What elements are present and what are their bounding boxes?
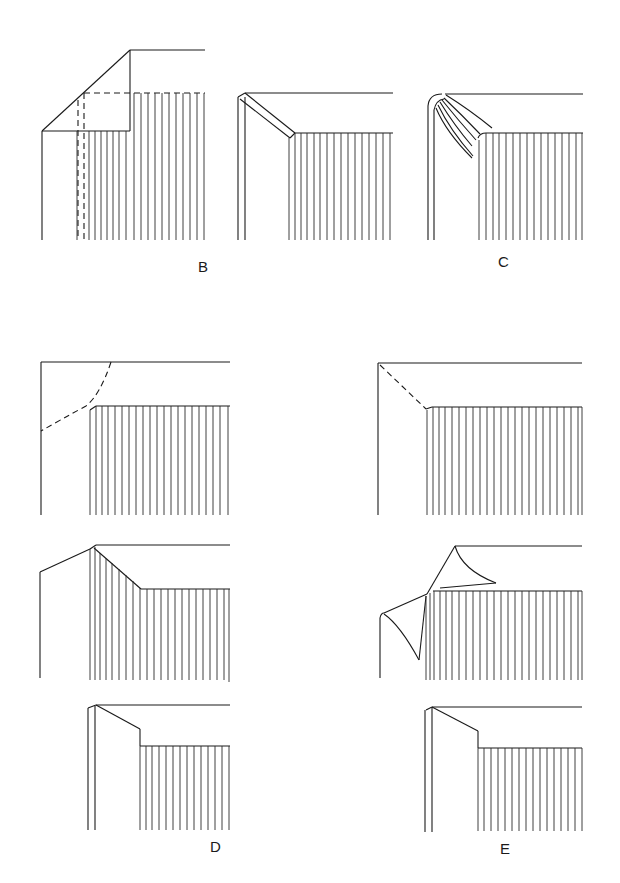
figure-label-d: D: [210, 838, 221, 855]
hatch-d-bot: [140, 746, 229, 830]
figure-e-mid: [380, 546, 582, 680]
figure-label-b: B: [198, 258, 208, 275]
figure-d-mid: [40, 545, 230, 682]
hatch-d-top: [90, 406, 228, 515]
figure-c: [428, 94, 583, 240]
figure-b-left: [42, 50, 205, 240]
hatch-c: [479, 133, 582, 240]
figure-d-bot: [88, 705, 230, 830]
hatch-b-left: [77, 93, 204, 240]
figure-label-c: C: [498, 253, 509, 270]
figure-d-top: [41, 362, 230, 515]
hatch-e-top: [427, 407, 582, 515]
hatch-d-mid: [90, 547, 229, 682]
diagram-canvas: [0, 0, 620, 883]
hatch-b-mid: [289, 133, 390, 240]
figure-e-bot: [425, 707, 582, 832]
figure-label-e: E: [500, 840, 510, 857]
figure-e-top: [378, 363, 582, 515]
hatch-e-mid: [426, 591, 582, 680]
hatch-e-bot: [478, 748, 582, 831]
figure-b-mid: [238, 93, 393, 240]
